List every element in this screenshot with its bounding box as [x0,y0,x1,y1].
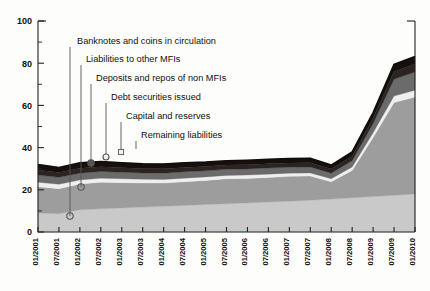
x-tick-label: 07/2007 [303,238,312,265]
annotation-marker-4 [118,149,123,154]
x-tick-label: 01/2010 [408,238,417,265]
y-tick-label: 60 [22,101,32,111]
y-tick-label: 0 [27,227,32,237]
y-tick-label: 80 [22,59,32,69]
stacked-area-chart: 020406080100 01/200107/200101/200207/200… [0,0,430,291]
x-tick-label: 07/2001 [52,237,61,265]
y-tick-labels: 020406080100 [17,16,32,237]
x-tick-label: 07/2002 [94,238,103,265]
annotation-label-4: Capital and reserves [126,111,211,121]
x-tick-label: 01/2001 [31,237,40,265]
x-tick-label: 01/2004 [157,237,166,265]
x-tick-label: 01/2002 [73,238,82,265]
x-tick-label: 07/2003 [136,238,145,265]
y-tick-label: 20 [22,185,32,195]
stacked-areas-group [38,56,415,232]
x-tick-label: 01/2006 [240,238,249,265]
annotation-label-3: Debt securities issued [111,92,201,102]
y-tick-label: 100 [17,16,32,26]
x-tick-label: 01/2007 [282,238,291,265]
x-tick-labels: 01/200107/200101/200207/200201/200307/20… [31,237,417,265]
annotation-label-2: Deposits and repos of non MFIs [96,73,227,83]
x-tick-label: 07/2005 [220,237,229,265]
x-tick-label: 07/2004 [178,237,187,265]
x-tick-label: 01/2005 [199,237,208,265]
x-tick-label: 07/2006 [261,238,270,265]
x-tick-label: 07/2008 [345,238,354,265]
annotation-label-5: Remaining liabilities [141,130,223,140]
annotation-marker-2 [88,160,94,166]
x-tick-label: 07/2009 [387,238,396,265]
x-tick-label: 01/2009 [366,238,375,265]
x-tick-label: 01/2008 [324,238,333,265]
annotation-marker-3 [103,154,109,160]
annotation-label-0: Banknotes and coins in circulation [77,36,216,46]
chart-canvas: 020406080100 01/200107/200101/200207/200… [0,0,430,291]
annotation-label-1: Liabilities to other MFIs [86,54,181,64]
x-tick-label: 01/2003 [115,238,124,265]
y-tick-label: 40 [22,143,32,153]
